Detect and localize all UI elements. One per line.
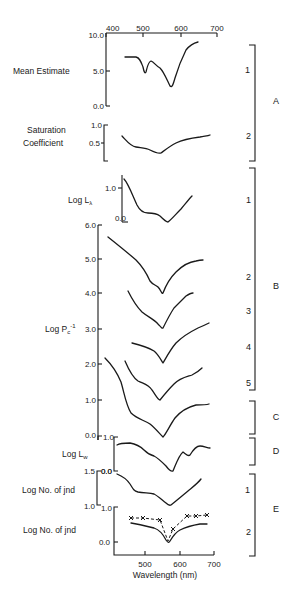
b1-tick-0: 0.0 <box>115 214 127 223</box>
b-tick-0: 0.0 <box>85 431 97 440</box>
b5-curve <box>125 361 202 400</box>
a1-tick-5: 5.0 <box>93 67 105 76</box>
x-axis-label: Wavelength (nm) <box>133 570 198 580</box>
b-tick-6: 6.0 <box>85 221 97 230</box>
a1-curve <box>125 42 198 87</box>
group-e-label: E <box>273 504 279 514</box>
a1-ylabel: Mean Estimate <box>13 66 70 76</box>
b-item-1: 1 <box>246 195 251 205</box>
b-tick-2: 2.0 <box>85 360 97 369</box>
e2-ylabel: Log No. of jnd <box>23 525 76 535</box>
group-d-label: D <box>273 446 280 456</box>
a-item-2: 2 <box>246 131 251 141</box>
top-x-axis: 400 500 600 700 <box>106 24 224 37</box>
panel-a1-mean-estimate: 10.0 5.0 0.0 Mean Estimate <box>13 31 198 111</box>
group-c-label: C <box>273 412 280 422</box>
b-tick-3: 3.0 <box>85 325 97 334</box>
d-tick-1: 1.0 <box>103 433 115 442</box>
a2-ylabel-line2: Coefficient <box>23 138 64 148</box>
e1-tick-0-aligned: 0.0 <box>101 467 113 476</box>
panel-b-log-pc: 6.0 5.0 4.0 3.0 2.0 1.0 0.0 Log Pc-1 <box>45 221 209 440</box>
a-item-1: 1 <box>245 65 250 75</box>
a2-curve <box>122 135 210 153</box>
e1-tick-1: 1.0 <box>84 502 96 511</box>
b3-curve <box>128 291 193 328</box>
panel-b1-log-l: 1.0 0.0 Log Lλ <box>68 175 192 223</box>
chart-figure: 400 500 600 700 10.0 5.0 0.0 Mean Estima… <box>0 0 297 598</box>
top-tick-400: 400 <box>106 24 120 33</box>
b1-tick-1: 1.0 <box>105 184 117 193</box>
e2-solid-curve <box>131 523 207 542</box>
a1-tick-0: 0.0 <box>93 102 105 111</box>
a2-tick-05: 0.5 <box>89 139 101 148</box>
b-tick-4: 4.0 <box>85 289 97 298</box>
b-item-3: 3 <box>246 306 251 316</box>
b-item-4: 4 <box>246 342 251 352</box>
b1-curve <box>124 179 192 222</box>
panel-a2-saturation: 1.0 0.5 Saturation Coefficient <box>23 121 210 161</box>
b-tick-1: 1.0 <box>85 396 97 405</box>
group-brackets: 1 2 A 1 2 3 4 5 B C D 1 2 E <box>245 45 280 556</box>
a1-tick-10: 10.0 <box>88 31 104 40</box>
e2-tick-1: 1.0 <box>101 504 113 513</box>
b2-curve <box>108 237 203 293</box>
e-item-1: 1 <box>245 485 250 495</box>
panel-e2-jnd: 1.0 0.0 Log No. of jnd 500 600 700 Wavel… <box>23 504 221 580</box>
bottom-tick-500: 500 <box>138 560 152 569</box>
b-item-2: 2 <box>246 272 251 282</box>
e2-x-markers <box>129 513 209 531</box>
a2-ylabel-line1: Saturation <box>27 125 66 135</box>
bottom-tick-700: 700 <box>207 560 221 569</box>
b-tick-5: 5.0 <box>85 255 97 264</box>
a2-tick-1: 1.0 <box>91 121 103 130</box>
group-a-label: A <box>273 96 279 106</box>
b4-curve <box>132 323 209 363</box>
e1-curve <box>117 474 201 505</box>
e1-tick-15: 1.5 <box>84 467 96 476</box>
bottom-tick-600: 600 <box>173 560 187 569</box>
b1-ylabel: Log Lλ <box>68 195 92 206</box>
top-tick-700: 700 <box>210 24 224 33</box>
d-curve <box>117 443 210 471</box>
b-ylabel: Log Pc-1 <box>45 323 76 335</box>
group-b-label: B <box>273 281 279 291</box>
e2-tick-0: 0.0 <box>99 538 111 547</box>
top-tick-600: 600 <box>174 24 188 33</box>
e1-ylabel: Log No. of jnd <box>22 485 75 495</box>
d-ylabel: Log Lw <box>62 449 88 460</box>
e-item-2: 2 <box>246 527 251 537</box>
top-tick-500: 500 <box>136 24 150 33</box>
b-item-5: 5 <box>246 378 251 388</box>
